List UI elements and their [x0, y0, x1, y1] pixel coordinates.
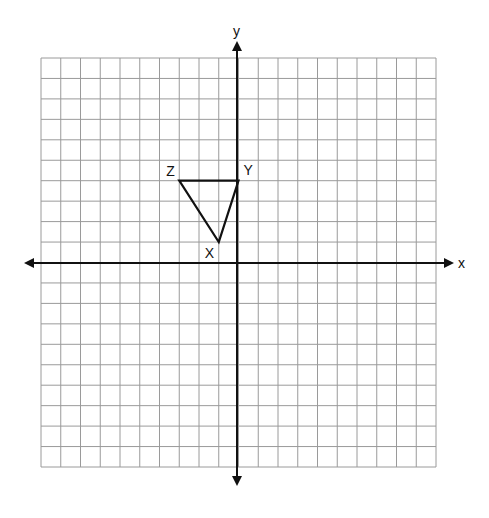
coordinate-plane: x y XYZ: [0, 0, 489, 518]
triangle-outline: [179, 181, 238, 242]
vertex-label-y: Y: [244, 162, 254, 178]
vertex-label-z: Z: [166, 163, 175, 179]
y-axis-up-arrow-icon: [232, 41, 242, 51]
x-axis-left-arrow-icon: [24, 258, 34, 268]
axes: x y: [24, 23, 465, 486]
x-axis-label: x: [458, 255, 465, 271]
y-axis-down-arrow-icon: [232, 476, 242, 486]
y-axis-label: y: [233, 23, 240, 39]
vertex-label-x: X: [205, 245, 215, 261]
x-axis-right-arrow-icon: [444, 258, 454, 268]
